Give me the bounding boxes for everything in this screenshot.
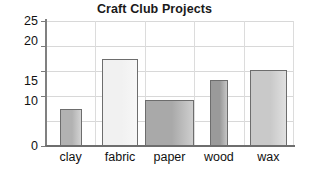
y-axis-line: [45, 19, 47, 147]
bar-fabric: [102, 59, 138, 147]
y-axis-tick-labels: 25 20 15 10 0: [6, 0, 38, 181]
y-tick-mark-20: [41, 46, 46, 47]
y-tick-mark-10: [41, 96, 46, 97]
gridline-v-4: [244, 21, 245, 146]
x-tick-label-clay: clay: [46, 150, 95, 164]
gridline-h-20: [46, 46, 293, 47]
x-tick-label-paper: paper: [145, 150, 194, 164]
y-tick-label-0: 0: [8, 140, 38, 153]
bar-wax: [250, 70, 287, 146]
y-tick-label-20: 20: [8, 35, 38, 48]
y-tick-label-25: 25: [8, 15, 38, 28]
gridline-v-3: [194, 21, 195, 146]
gridline-v-5: [293, 21, 294, 146]
y-tick-mark-15: [41, 71, 46, 72]
y-tick-mark-25: [41, 21, 46, 22]
y-tick-label-10: 10: [8, 95, 38, 108]
x-tick-label-fabric: fabric: [95, 150, 144, 164]
bar-paper: [145, 100, 193, 147]
chart-title: Craft Club Projects: [0, 2, 309, 16]
y-tick-mark-0: [41, 146, 46, 147]
y-tick-label-15: 15: [8, 75, 38, 88]
x-tick-label-wood: wood: [194, 150, 243, 164]
plot-area: [46, 21, 293, 146]
bar-wood: [210, 80, 228, 147]
bar-clay: [60, 109, 82, 147]
gridline-h-25: [46, 21, 293, 22]
x-axis-line: [45, 145, 295, 147]
x-tick-label-wax: wax: [244, 150, 293, 164]
bar-chart: Craft Club Projects 25 20 15 10 0 clayfa…: [0, 0, 309, 181]
gridline-v-1: [95, 21, 96, 146]
